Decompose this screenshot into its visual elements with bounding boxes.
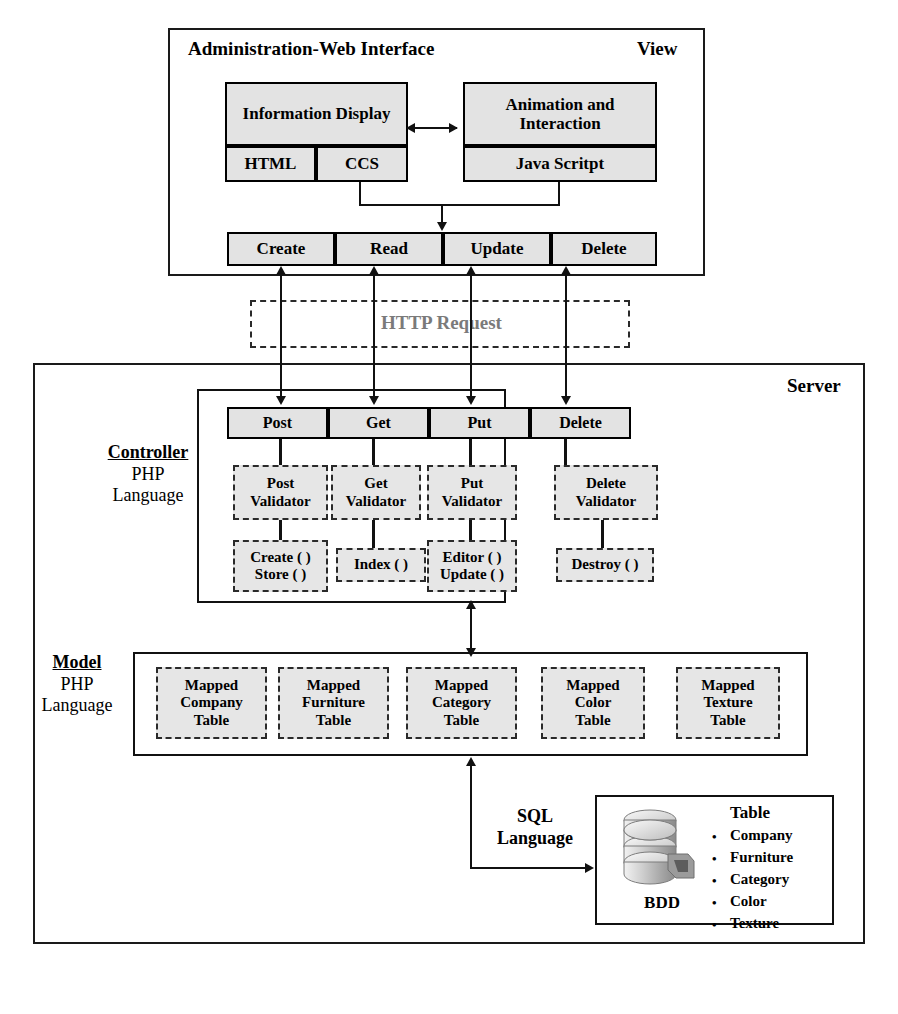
view-heading: Administration-Web Interface	[188, 38, 434, 60]
view-corner-label: View	[637, 38, 677, 60]
mapped-line-1-0: Mapped	[307, 677, 360, 694]
request-arrow-up-0	[276, 266, 286, 275]
verb-label-0: Post	[263, 414, 292, 432]
method-line-1-0: Index ( )	[354, 556, 408, 573]
mapped-furniture-table-box[interactable]: Mapped Furniture Table	[278, 667, 389, 739]
method-line-2-0: Editor ( )	[443, 549, 502, 566]
mapped-line-0-0: Mapped	[185, 677, 238, 694]
mapped-texture-table-box[interactable]: Mapped Texture Table	[676, 667, 780, 739]
mapped-line-4-2: Table	[710, 712, 745, 729]
request-line-3	[565, 270, 567, 400]
view-link-arrow-left	[406, 123, 415, 133]
js-down-line	[558, 182, 560, 204]
validator-method-line-2	[469, 520, 472, 540]
verb-validator-line-2	[469, 439, 472, 465]
validator-post-box[interactable]: Post Validator	[233, 465, 328, 520]
request-line-1	[373, 270, 375, 400]
javascript-box[interactable]: Java Scritpt	[463, 146, 657, 182]
crud-label-1: Read	[370, 239, 408, 258]
javascript-label: Java Scritpt	[516, 154, 604, 173]
validator-method-line-0	[279, 520, 282, 540]
sql-arrow-to-model	[466, 757, 476, 766]
sql-arrow-to-bdd	[585, 863, 594, 873]
table-list-item-1: Furniture	[712, 850, 793, 865]
validator-method-line-1	[372, 520, 375, 548]
method-line-0-0: Create ( )	[250, 549, 311, 566]
validator-label-2: Put Validator	[429, 475, 515, 510]
mapped-line-2-1: Category	[432, 694, 491, 711]
controller-sub-2: Language	[93, 485, 203, 507]
crud-read-box[interactable]: Read	[335, 232, 443, 266]
sql-label-1: SQL	[485, 806, 585, 828]
mapped-color-table-box[interactable]: Mapped Color Table	[541, 667, 645, 739]
mapped-line-0-1: Company	[180, 694, 243, 711]
validator-put-box[interactable]: Put Validator	[427, 465, 517, 520]
animation-interaction-box[interactable]: Animation and Interaction	[463, 82, 657, 146]
request-arrow-up-2	[466, 266, 476, 275]
mapped-line-2-0: Mapped	[435, 677, 488, 694]
table-heading: Table	[730, 803, 770, 823]
verb-get-box[interactable]: Get	[328, 407, 429, 439]
view-link-arrow-right	[449, 123, 458, 133]
controller-sub-1: PHP	[93, 464, 203, 486]
view-join-stem	[441, 204, 443, 224]
model-sub-1: PHP	[22, 674, 132, 696]
method-index-box[interactable]: Index ( )	[336, 548, 426, 582]
model-side-label: Model PHP Language	[22, 652, 132, 717]
method-create-store-box[interactable]: Create ( ) Store ( )	[233, 540, 328, 592]
crud-update-box[interactable]: Update	[443, 232, 551, 266]
verb-validator-line-0	[279, 439, 282, 465]
verb-post-box[interactable]: Post	[227, 407, 328, 439]
table-list-item-2: Category	[712, 872, 793, 887]
verb-put-box[interactable]: Put	[429, 407, 530, 439]
crud-label-0: Create	[257, 239, 306, 258]
request-arrow-down-3	[561, 396, 571, 405]
mapped-company-table-box[interactable]: Mapped Company Table	[156, 667, 267, 739]
sql-label-2: Language	[485, 828, 585, 850]
table-list-item-0: Company	[712, 828, 793, 843]
verb-label-1: Get	[366, 414, 391, 432]
mapped-line-2-2: Table	[444, 712, 479, 729]
sql-horizontal-line	[470, 867, 587, 869]
method-destroy-box[interactable]: Destroy ( )	[556, 548, 654, 582]
http-request-label: HTTP Request	[381, 312, 502, 334]
crud-delete-box[interactable]: Delete	[551, 232, 657, 266]
validator-method-line-3	[601, 520, 604, 548]
controller-model-line	[470, 604, 472, 652]
method-editor-update-box[interactable]: Editor ( ) Update ( )	[427, 540, 517, 592]
information-display-box[interactable]: Information Display	[225, 82, 408, 146]
ccs-down-line	[359, 182, 361, 204]
mapped-line-1-2: Table	[316, 712, 351, 729]
request-arrow-up-1	[369, 266, 379, 275]
ccs-box[interactable]: CCS	[316, 146, 408, 182]
table-list-item-4: Texture	[712, 916, 793, 931]
request-line-2	[470, 270, 472, 400]
verb-delete-box[interactable]: Delete	[530, 407, 631, 439]
mapped-line-3-1: Color	[575, 694, 612, 711]
request-line-0	[280, 270, 282, 400]
information-display-label: Information Display	[243, 104, 391, 123]
html-box[interactable]: HTML	[225, 146, 316, 182]
validator-get-box[interactable]: Get Validator	[331, 465, 421, 520]
database-table-list: Company Furniture Category Color Texture	[712, 828, 793, 938]
bdd-caption: BDD	[616, 893, 708, 913]
validator-label-1: Get Validator	[333, 475, 419, 510]
mapped-line-0-2: Table	[194, 712, 229, 729]
method-line-3-0: Destroy ( )	[571, 556, 638, 573]
mapped-line-3-2: Table	[575, 712, 610, 729]
view-join-line	[359, 204, 560, 206]
controller-side-label: Controller PHP Language	[93, 442, 203, 507]
animation-interaction-label: Animation and Interaction	[475, 95, 645, 133]
crud-create-box[interactable]: Create	[227, 232, 335, 266]
mapped-category-table-box[interactable]: Mapped Category Table	[406, 667, 517, 739]
verb-validator-line-3	[564, 439, 567, 465]
table-list-item-3: Color	[712, 894, 793, 909]
mapped-line-4-1: Texture	[703, 694, 752, 711]
method-line-0-1: Store ( )	[255, 566, 306, 583]
mapped-line-3-0: Mapped	[566, 677, 619, 694]
sql-language-label: SQL Language	[485, 806, 585, 849]
diagram-canvas: Administration-Web Interface View Inform…	[0, 0, 898, 1014]
request-arrow-up-3	[561, 266, 571, 275]
method-line-2-1: Update ( )	[440, 566, 504, 583]
validator-delete-box[interactable]: Delete Validator	[554, 465, 658, 520]
